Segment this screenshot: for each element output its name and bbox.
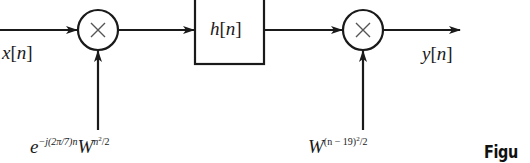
output-signal-label: y[n] bbox=[422, 43, 453, 65]
multiply-icon bbox=[356, 23, 370, 37]
figure-caption: Figu bbox=[484, 142, 518, 162]
modulator-1-label: e−j(2π/7)nWn2/2 bbox=[30, 136, 110, 158]
filter-block-label: h[n] bbox=[210, 18, 242, 40]
modulator-2-label: W(n − 19)2/2 bbox=[308, 136, 367, 158]
input-signal-label: x[n] bbox=[2, 42, 33, 64]
multiply-icon bbox=[91, 23, 105, 37]
